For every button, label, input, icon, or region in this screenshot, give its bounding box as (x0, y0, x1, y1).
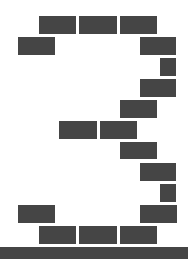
brick (59, 121, 97, 139)
brick (140, 163, 176, 181)
brick (39, 226, 76, 244)
brick (140, 205, 177, 223)
brick (120, 142, 157, 159)
brick (18, 205, 55, 223)
brick (39, 16, 76, 34)
brick (160, 184, 176, 202)
brick (100, 121, 137, 139)
brick (79, 16, 117, 34)
brick (120, 100, 157, 118)
brick (160, 58, 176, 76)
brick (79, 226, 117, 244)
brick (140, 79, 176, 97)
brick (120, 16, 157, 34)
brick (120, 226, 157, 244)
brick (18, 37, 55, 55)
ground-bar (0, 247, 188, 259)
brick (140, 37, 176, 55)
